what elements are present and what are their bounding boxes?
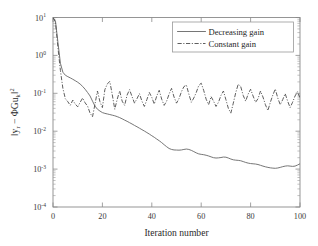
legend-label: Decreasing gain	[209, 27, 265, 37]
figure-container: 10110010-110-210-310-4 020406080100 Iter…	[0, 0, 318, 246]
x-axis-label: Iteration number	[144, 227, 209, 238]
line-chart: 10110010-110-210-310-4 020406080100 Iter…	[0, 0, 318, 246]
x-tick-label: 0	[51, 212, 55, 221]
legend-label: Constant gain	[209, 39, 257, 49]
x-tick-label: 40	[148, 212, 156, 221]
x-tick-label: 60	[197, 212, 205, 221]
x-tick-label: 20	[98, 212, 106, 221]
chart-legend: Decreasing gainConstant gain	[173, 22, 294, 52]
x-tick-label: 80	[247, 212, 255, 221]
x-tick-label: 100	[294, 212, 306, 221]
